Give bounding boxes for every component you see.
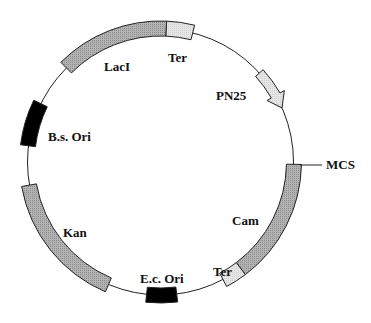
plasmid-map: LacI Ter PN25 B.s. Ori MCS Cam Kan Ter E… xyxy=(0,0,371,323)
feature-labels: LacI Ter PN25 B.s. Ori MCS Cam Kan Ter E… xyxy=(48,50,355,286)
feature-bs-ori xyxy=(21,100,48,146)
feature-segments xyxy=(21,21,302,303)
label-cam: Cam xyxy=(232,213,259,228)
label-kan: Kan xyxy=(63,225,88,240)
feature-pn25 xyxy=(256,70,285,108)
label-ter-bottom: Ter xyxy=(213,264,232,279)
label-pn25: PN25 xyxy=(216,88,247,103)
label-laci: LacI xyxy=(104,59,130,74)
label-ter-top: Ter xyxy=(168,50,187,65)
label-bs-ori: B.s. Ori xyxy=(48,129,91,144)
label-mcs: MCS xyxy=(326,157,355,172)
feature-ec-ori xyxy=(146,287,178,303)
feature-ter-top xyxy=(166,21,195,40)
label-ec-ori: E.c. Ori xyxy=(140,271,184,286)
